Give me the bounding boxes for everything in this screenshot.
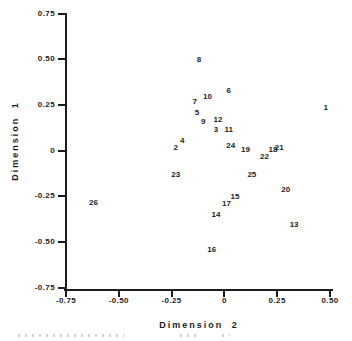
data-point-15: 15 bbox=[231, 192, 240, 201]
y-tick-label: -0.50 bbox=[20, 237, 55, 247]
data-point-16: 16 bbox=[207, 245, 216, 254]
clipped-caption-artifact bbox=[18, 334, 124, 337]
data-point-24: 24 bbox=[226, 141, 235, 150]
clipped-caption-artifact bbox=[180, 334, 198, 337]
y-tick-label: 0.75 bbox=[20, 9, 55, 19]
y-tick-mark bbox=[58, 287, 65, 289]
y-axis-title: Dimension 1 bbox=[10, 101, 20, 181]
data-point-21: 21 bbox=[275, 142, 284, 151]
data-point-22: 22 bbox=[260, 151, 269, 160]
data-point-11: 11 bbox=[224, 124, 232, 133]
x-tick-label: 0.25 bbox=[261, 296, 293, 306]
data-point-10: 10 bbox=[203, 91, 212, 100]
data-point-6: 6 bbox=[226, 86, 230, 95]
data-point-14: 14 bbox=[211, 210, 220, 219]
data-point-17: 17 bbox=[222, 199, 231, 208]
data-point-13: 13 bbox=[290, 219, 299, 228]
data-point-12: 12 bbox=[214, 115, 223, 124]
data-point-3: 3 bbox=[214, 124, 218, 133]
data-point-20: 20 bbox=[281, 184, 290, 193]
y-tick-mark bbox=[58, 241, 65, 243]
data-point-19: 19 bbox=[241, 144, 250, 153]
data-point-23: 23 bbox=[171, 170, 180, 179]
y-tick-mark bbox=[58, 104, 65, 106]
data-point-1: 1 bbox=[324, 102, 328, 111]
y-tick-label: -0.25 bbox=[20, 191, 55, 201]
data-point-9: 9 bbox=[201, 117, 205, 126]
data-point-7: 7 bbox=[193, 97, 197, 106]
x-axis-title: Dimension 2 bbox=[159, 320, 239, 330]
scatter-plot-figure: Dimension 1 Dimension 2 0.750.500.250-0.… bbox=[0, 0, 352, 341]
data-point-5: 5 bbox=[195, 108, 199, 117]
y-axis-line bbox=[65, 13, 67, 290]
x-tick-label: -0.75 bbox=[50, 296, 82, 306]
x-axis-line bbox=[64, 289, 333, 291]
y-tick-label: 0 bbox=[20, 146, 55, 156]
y-tick-label: -0.75 bbox=[20, 283, 55, 293]
x-tick-label: 0 bbox=[208, 296, 240, 306]
x-tick-label: -0.50 bbox=[103, 296, 135, 306]
data-point-25: 25 bbox=[247, 170, 256, 179]
data-point-26: 26 bbox=[89, 197, 98, 206]
data-point-8: 8 bbox=[197, 55, 201, 64]
clipped-caption-artifact bbox=[222, 334, 230, 337]
y-tick-label: 0.25 bbox=[20, 100, 55, 110]
y-tick-mark bbox=[58, 195, 65, 197]
y-tick-mark bbox=[58, 13, 65, 15]
y-tick-mark bbox=[58, 58, 65, 60]
data-point-4: 4 bbox=[180, 135, 184, 144]
x-tick-label: 0.50 bbox=[314, 296, 346, 306]
y-tick-mark bbox=[58, 150, 65, 152]
x-tick-label: -0.25 bbox=[156, 296, 188, 306]
y-tick-label: 0.50 bbox=[20, 54, 55, 64]
data-point-2: 2 bbox=[174, 142, 178, 151]
